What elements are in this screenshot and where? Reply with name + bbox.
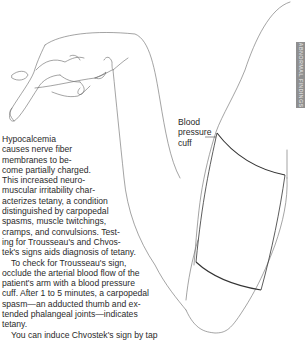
text-line: This increased neuro- xyxy=(2,175,158,185)
text-line: membranes to be- xyxy=(2,155,158,165)
text-line: distinguished by carpopedal xyxy=(2,206,158,216)
cuff-top-edge xyxy=(217,133,285,175)
text-line: muscular irritability char- xyxy=(2,185,158,195)
text-line-partial: You can induce Chvostek's sign by tap xyxy=(2,330,158,340)
elbow-outline xyxy=(186,178,287,333)
cuff-callout-label: Blood pressure cuff xyxy=(178,117,211,148)
text-line: patient's arm with a blood pressure xyxy=(2,278,158,288)
text-line: spasm—an adducted thumb and ex- xyxy=(2,299,158,309)
text-line: tek's signs aids diagnosis of tetany. xyxy=(2,247,158,257)
text-line: occlude the arterial blood flow of the xyxy=(2,268,158,278)
callout-line: pressure xyxy=(178,127,211,137)
side-tab-label: ABNORMAL FINDINGS xyxy=(298,43,304,108)
text-line: tended phalangeal joints—indicates xyxy=(2,309,158,319)
text-line: causes nerve fiber xyxy=(2,144,158,154)
hand-outline xyxy=(10,45,60,121)
text-line: acterizes tetany, a condition xyxy=(2,196,158,206)
text-line: ing for Trousseau's and Chvos- xyxy=(2,237,158,247)
text-line: cramps, and convulsions. Test- xyxy=(2,227,158,237)
text-line: tetany. xyxy=(2,319,158,329)
text-line: cuff. After 1 to 5 minutes, a carpopedal xyxy=(2,288,158,298)
cuff-right-edge xyxy=(261,175,285,290)
callout-line: Blood xyxy=(178,117,211,127)
text-line: spasms, muscle twitchings, xyxy=(2,216,158,226)
callout-line: cuff xyxy=(178,138,211,148)
body-text: Hypocalcemia causes nerve fiber membrane… xyxy=(2,134,158,340)
text-line: Hypocalcemia xyxy=(2,134,158,144)
cuff-left-edge xyxy=(196,133,217,262)
text-line: To check for Trousseau's sign, xyxy=(2,258,158,268)
cuff-bottom-edge xyxy=(196,262,261,290)
text-line: come partially charged. xyxy=(2,165,158,175)
section-side-tab: ABNORMAL FINDINGS xyxy=(296,42,305,108)
